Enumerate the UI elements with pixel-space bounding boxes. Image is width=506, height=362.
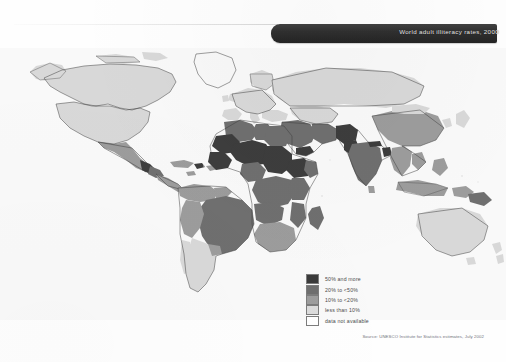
page-title: World adult illiteracy rates, 2000 — [399, 28, 499, 35]
legend-swatch-50-and-more — [306, 274, 319, 284]
legend-swatch-less-than-10 — [306, 305, 319, 315]
legend-label-50-and-more: 50% and more — [325, 276, 361, 282]
map-page: World adult illiteracy rates, 2000 .c50 … — [0, 0, 506, 362]
legend-swatch-10-to-20 — [306, 295, 319, 305]
legend-item: 10% to <20% — [306, 295, 406, 305]
legend-swatch-no-data — [306, 316, 319, 326]
legend-label-less-than-10: less than 10% — [325, 307, 360, 313]
legend-item: data not available — [306, 316, 406, 326]
legend-label-10-to-20: 10% to <20% — [325, 297, 358, 303]
world-map-svg: .c50 { fill:#3a3a3a; } .c20 { fill:#6e6e… — [0, 48, 506, 320]
header-divider-rule — [14, 24, 278, 25]
legend-item: 50% and more — [306, 274, 406, 284]
source-note: Source: UNESCO Institute for Statistics … — [362, 334, 484, 339]
legend-swatch-20-to-50 — [306, 285, 319, 295]
legend-label-20-to-50: 20% to <50% — [325, 287, 358, 293]
legend-label-no-data: data not available — [325, 318, 369, 324]
legend-item: 20% to <50% — [306, 284, 406, 294]
world-map: .c50 { fill:#3a3a3a; } .c20 { fill:#6e6e… — [0, 48, 506, 320]
legend-item: less than 10% — [306, 305, 406, 315]
map-legend: 50% and more 20% to <50% 10% to <20% les… — [306, 274, 406, 326]
